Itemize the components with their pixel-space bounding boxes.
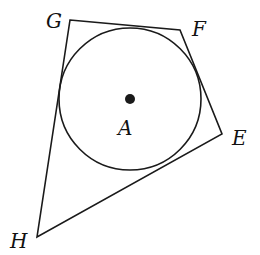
geometry-diagram: G F E H A [0,0,260,255]
center-point-a [125,94,135,104]
vertex-label-e: E [231,126,247,150]
vertex-label-g: G [46,9,62,33]
diagram-svg: G F E H A [0,0,260,255]
vertex-label-h: H [9,229,28,253]
vertex-label-f: F [191,17,207,41]
center-label-a: A [116,116,132,140]
